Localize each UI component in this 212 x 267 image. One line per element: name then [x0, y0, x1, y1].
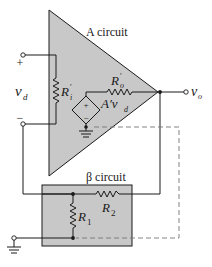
svg-text:R: R — [110, 73, 119, 88]
svg-text:′: ′ — [70, 83, 72, 92]
feedback-amplifier-diagram: + − — [0, 0, 212, 267]
svg-text:v: v — [15, 83, 22, 99]
svg-text:d: d — [23, 92, 28, 102]
svg-text:2: 2 — [111, 208, 116, 218]
svg-text:o: o — [198, 92, 202, 101]
svg-text:o: o — [120, 81, 124, 90]
svg-text:′: ′ — [120, 72, 122, 81]
a-circuit-label: A circuit — [86, 25, 128, 39]
svg-text:R: R — [77, 209, 86, 224]
svg-text:i: i — [70, 93, 72, 102]
svg-text:R: R — [101, 200, 110, 215]
svg-text:v: v — [191, 84, 198, 99]
svg-text:1: 1 — [87, 217, 92, 227]
beta-circuit-label: β circuit — [86, 170, 126, 184]
svg-text:A′v: A′v — [100, 96, 118, 111]
vd-label: v d — [15, 83, 28, 102]
input-plus-label: + — [17, 56, 24, 70]
source-plus-sign: + — [83, 100, 88, 110]
ground-icon — [7, 247, 21, 253]
source-minus-sign: − — [83, 113, 88, 123]
vo-label: v o — [191, 84, 202, 101]
input-minus-label: − — [17, 111, 24, 125]
svg-text:R: R — [60, 84, 69, 99]
